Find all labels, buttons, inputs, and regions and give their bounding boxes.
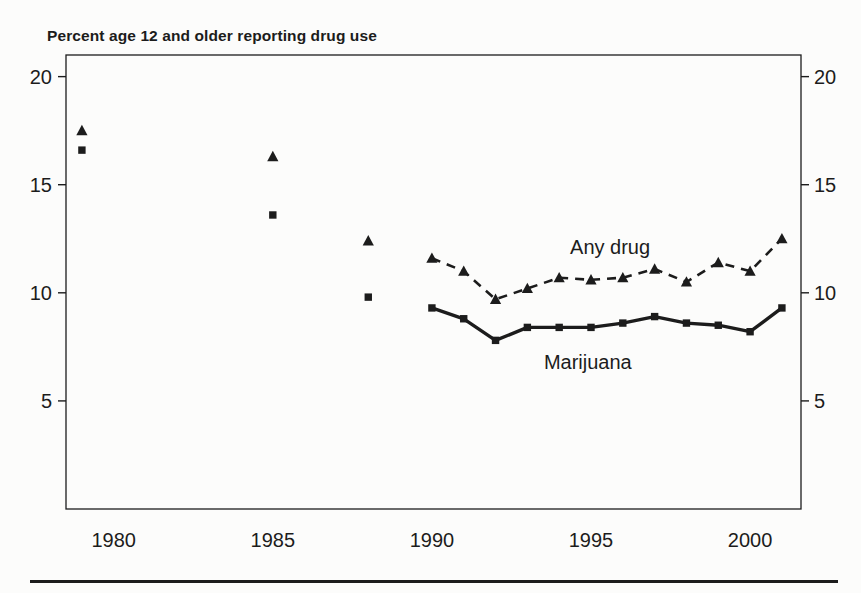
- marker-square-marijuana: [269, 211, 276, 218]
- marker-triangle-any-drug: [776, 233, 787, 243]
- x-tick-label: 1985: [251, 529, 296, 551]
- y-tick-label-left: 10: [30, 282, 52, 304]
- x-tick-label: 1990: [410, 529, 455, 551]
- marker-triangle-any-drug: [267, 151, 278, 161]
- marker-square-marijuana: [428, 304, 435, 311]
- y-tick-label-right: 10: [814, 282, 836, 304]
- marker-triangle-any-drug: [681, 276, 692, 286]
- marker-square-marijuana: [492, 337, 499, 344]
- bottom-rule: [30, 580, 838, 583]
- y-tick-label-right: 5: [814, 390, 825, 412]
- x-tick-label: 2000: [728, 529, 773, 551]
- y-tick-label-left: 15: [30, 174, 52, 196]
- marker-triangle-any-drug: [76, 125, 87, 135]
- marker-square-marijuana: [651, 313, 658, 320]
- marker-triangle-any-drug: [649, 263, 660, 273]
- marker-square-marijuana: [619, 319, 626, 326]
- series-line-marijuana: [432, 308, 782, 341]
- plot-frame: [66, 55, 801, 509]
- y-tick-label-left: 5: [41, 390, 52, 412]
- marker-triangle-any-drug: [458, 265, 469, 275]
- marker-triangle-any-drug: [713, 257, 724, 267]
- marker-triangle-any-drug: [426, 252, 437, 262]
- series-label-marijuana: Marijuana: [544, 351, 633, 373]
- y-tick-label-right: 15: [814, 174, 836, 196]
- x-tick-label: 1995: [569, 529, 614, 551]
- marker-square-marijuana: [587, 324, 594, 331]
- marker-square-marijuana: [555, 324, 562, 331]
- series-label-any-drug: Any drug: [570, 236, 650, 258]
- x-tick-label: 1980: [91, 529, 136, 551]
- marker-square-marijuana: [524, 324, 531, 331]
- marker-square-marijuana: [715, 322, 722, 329]
- marker-square-marijuana: [746, 328, 753, 335]
- marker-square-marijuana: [78, 146, 85, 153]
- marker-square-marijuana: [778, 304, 785, 311]
- marker-triangle-any-drug: [363, 235, 374, 245]
- y-tick-label-left: 20: [30, 66, 52, 88]
- drug-use-figure: Percent age 12 and older reporting drug …: [0, 0, 861, 593]
- y-tick-label-right: 20: [814, 66, 836, 88]
- marker-square-marijuana: [460, 315, 467, 322]
- line-chart: 5510101515202019801985199019952000Any dr…: [0, 0, 861, 593]
- marker-square-marijuana: [683, 319, 690, 326]
- marker-square-marijuana: [365, 293, 372, 300]
